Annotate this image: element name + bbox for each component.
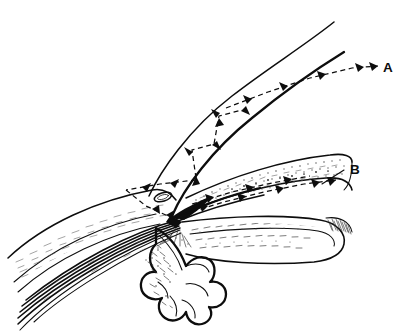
ciliary-processes: [141, 228, 226, 324]
flow-to-label-a: [226, 62, 378, 108]
label-b: B: [350, 162, 360, 177]
iris-texture: [192, 223, 318, 248]
outer-coat-left: [8, 189, 176, 292]
iris-body: [182, 216, 344, 263]
sclera-cut-edge: [326, 218, 352, 234]
anatomical-figure: A B: [0, 0, 407, 333]
schlemms-canal: [153, 190, 173, 203]
figure-canvas: A B: [0, 0, 407, 333]
flow-anterior-chamber: [184, 106, 250, 186]
label-a: A: [383, 60, 393, 75]
